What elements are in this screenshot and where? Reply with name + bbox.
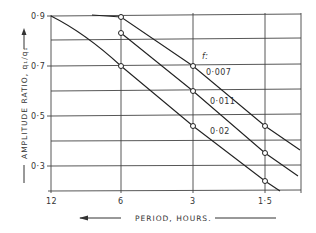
x-tick-6: 6 — [118, 197, 124, 206]
y-tick-0.7: 0·7 — [31, 62, 45, 71]
arrow-up-icon — [22, 28, 27, 35]
y-tick-0.5: 0·5 — [31, 112, 45, 121]
x-tick-1.5: 1·5 — [258, 197, 272, 206]
series-label-0.007: 0·007 — [206, 68, 231, 77]
svg-text:AMPLITUDE RATIO, q₁/q₁: AMPLITUDE RATIO, q₁/q₁ — [20, 47, 29, 159]
y-tick-0.9: 0·9 — [31, 12, 45, 21]
series-label-0.011: 0·011 — [210, 97, 235, 106]
x-tick-12: 12 — [46, 197, 57, 206]
amplitude-ratio-chart: f: 0·007 0·011 0·02 0·9 0·7 0·5 0·3 12 6… — [0, 0, 316, 233]
y-tick-0.3: 0·3 — [31, 162, 45, 171]
arrow-left-icon — [79, 216, 88, 221]
series-label-0.02: 0·02 — [210, 127, 230, 136]
legend-title: f: — [202, 52, 209, 61]
y-axis-label: AMPLITUDE RATIO, q₁/q₁ — [20, 28, 29, 183]
series-0.02-line — [51, 16, 280, 191]
y-ticks — [47, 16, 51, 166]
x-tick-3: 3 — [190, 197, 196, 206]
x-axis-label: PERIOD, HOURS. — [79, 214, 276, 223]
grid-horizontal — [48, 14, 301, 191]
svg-text:PERIOD, HOURS.: PERIOD, HOURS. — [135, 214, 212, 223]
